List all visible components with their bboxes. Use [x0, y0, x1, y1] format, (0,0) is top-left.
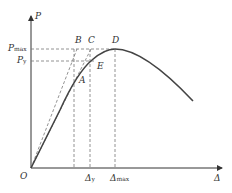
point-e-label: E — [97, 62, 104, 71]
point-b-label: B — [75, 36, 82, 45]
point-c-label: C — [88, 36, 95, 45]
pmax-label: Pmax — [8, 44, 27, 53]
x-axis-label: Δ — [214, 174, 221, 183]
point-a-label: A — [79, 76, 86, 85]
load-curve — [31, 49, 193, 168]
origin-label: O — [20, 172, 27, 181]
secant-ob — [31, 49, 77, 168]
py-label: Py — [17, 56, 26, 65]
diagram-canvas — [0, 0, 232, 193]
delta-max-label: Δmax — [110, 174, 129, 183]
point-d-label: D — [112, 36, 119, 45]
y-axis-label: P — [35, 12, 41, 21]
delta-y-label: Δy — [85, 174, 95, 183]
